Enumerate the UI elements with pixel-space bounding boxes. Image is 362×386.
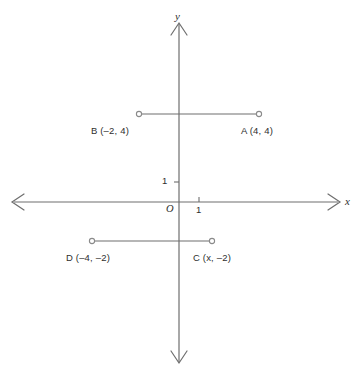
point-label-C: C (x, –2) [193, 252, 231, 263]
y-axis-label: y [175, 10, 180, 22]
x-axis-label: x [345, 195, 350, 207]
point-marker-C [209, 238, 214, 243]
point-label-B: B (–2, 4) [91, 125, 129, 136]
coordinate-plane-figure: x y O 1 1 B (–2, 4) A (4, 4) D (–4, –2) … [0, 0, 362, 386]
point-marker-A [256, 111, 261, 116]
origin-label: O [166, 203, 174, 214]
point-label-A: A (4, 4) [241, 125, 273, 136]
y-axis-tick-label-1: 1 [162, 175, 167, 186]
point-marker-B [136, 111, 141, 116]
point-label-D: D (–4, –2) [66, 252, 110, 263]
point-marker-D [89, 238, 94, 243]
coordinate-plane-canvas [0, 0, 362, 386]
x-axis-tick-label-1: 1 [196, 204, 201, 215]
